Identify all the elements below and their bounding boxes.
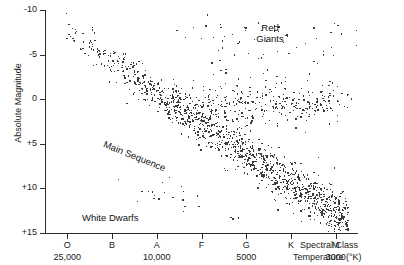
scatter-point — [185, 123, 186, 124]
scatter-point — [319, 187, 320, 188]
scatter-point — [129, 80, 130, 81]
scatter-point — [218, 130, 219, 131]
scatter-point — [264, 172, 265, 173]
scatter-point — [270, 153, 271, 154]
scatter-point — [262, 164, 263, 165]
scatter-point — [256, 161, 257, 162]
scatter-point — [309, 191, 310, 192]
scatter-point — [205, 25, 206, 26]
scatter-point — [181, 118, 182, 119]
scatter-point — [76, 31, 77, 32]
scatter-point — [304, 198, 305, 199]
scatter-point — [222, 40, 223, 41]
scatter-point — [277, 172, 278, 173]
scatter-point — [308, 215, 309, 216]
scatter-point — [225, 116, 226, 117]
scatter-point — [203, 86, 204, 87]
scatter-point — [188, 118, 189, 119]
scatter-point — [307, 200, 308, 201]
scatter-point — [203, 125, 204, 126]
scatter-point — [205, 116, 206, 117]
scatter-point — [320, 222, 321, 223]
scatter-point — [309, 196, 310, 197]
scatter-point — [347, 214, 348, 215]
scatter-point — [285, 171, 286, 172]
scatter-point — [204, 128, 205, 129]
scatter-point — [316, 106, 317, 107]
scatter-point — [126, 69, 127, 70]
scatter-point — [221, 142, 222, 143]
scatter-point — [126, 103, 127, 104]
scatter-point — [193, 80, 194, 81]
scatter-point — [309, 114, 310, 115]
scatter-point — [153, 86, 154, 87]
scatter-point — [247, 96, 248, 97]
scatter-point — [327, 205, 328, 206]
scatter-point — [214, 134, 215, 135]
scatter-point — [239, 139, 240, 140]
scatter-point — [288, 184, 289, 185]
scatter-point — [289, 97, 290, 98]
scatter-point — [287, 119, 288, 120]
scatter-point — [192, 101, 193, 102]
scatter-point — [137, 78, 138, 79]
scatter-points-layer — [0, 0, 404, 265]
scatter-point — [239, 132, 240, 133]
scatter-point — [346, 222, 347, 223]
scatter-point — [295, 107, 296, 108]
scatter-point — [273, 96, 274, 97]
scatter-point — [313, 198, 314, 199]
scatter-point — [194, 117, 195, 118]
scatter-point — [333, 90, 334, 91]
scatter-point — [272, 166, 273, 167]
scatter-point — [323, 204, 324, 205]
scatter-point — [306, 120, 307, 121]
scatter-point — [261, 156, 262, 157]
scatter-point — [321, 199, 322, 200]
scatter-point — [293, 170, 294, 171]
scatter-point — [107, 65, 108, 66]
scatter-point — [323, 110, 324, 111]
scatter-point — [341, 226, 342, 227]
scatter-point — [150, 89, 151, 90]
scatter-point — [245, 118, 246, 119]
scatter-point — [197, 195, 198, 196]
scatter-point — [266, 169, 267, 170]
scatter-point — [254, 165, 255, 166]
scatter-point — [141, 93, 142, 94]
scatter-point — [209, 117, 210, 118]
scatter-point — [316, 203, 317, 204]
scatter-point — [212, 100, 213, 101]
scatter-point — [176, 85, 177, 86]
scatter-point — [308, 197, 309, 198]
scatter-point — [342, 213, 343, 214]
scatter-point — [303, 174, 304, 175]
scatter-point — [238, 78, 239, 79]
scatter-point — [208, 142, 209, 143]
scatter-point — [261, 143, 262, 144]
scatter-point — [317, 198, 318, 199]
scatter-point — [188, 136, 189, 137]
scatter-point — [277, 125, 278, 126]
scatter-point — [334, 23, 335, 24]
scatter-point — [161, 101, 162, 102]
scatter-point — [208, 122, 209, 123]
scatter-point — [338, 222, 339, 223]
scatter-point — [286, 183, 287, 184]
scatter-point — [263, 158, 264, 159]
scatter-point — [208, 102, 209, 103]
scatter-point — [143, 82, 144, 83]
scatter-point — [347, 94, 348, 95]
scatter-point — [135, 84, 136, 85]
scatter-point — [137, 80, 138, 81]
scatter-point — [211, 135, 212, 136]
scatter-point — [329, 123, 330, 124]
y-tick-label: -5 — [29, 50, 37, 59]
scatter-point — [232, 119, 233, 120]
scatter-point — [198, 144, 199, 145]
scatter-point — [335, 226, 336, 227]
scatter-point — [273, 106, 274, 107]
scatter-point — [177, 105, 178, 106]
scatter-point — [308, 207, 309, 208]
scatter-point — [263, 114, 264, 115]
